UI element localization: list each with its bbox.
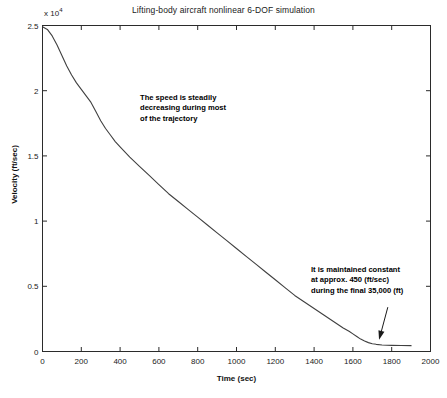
y-tick-label: 0.5 (27, 282, 39, 291)
velocity-line-series (43, 27, 412, 346)
x-tick-label: 200 (75, 357, 89, 366)
x-axis-tick-labels: 0200400600800100012001400160018002000 (40, 357, 440, 366)
y-axis-tick-labels: 00.511.522.5 (27, 22, 39, 357)
x-tick-label: 800 (191, 357, 205, 366)
plot-frame (43, 26, 431, 352)
y-axis-ticks (43, 26, 431, 352)
y-tick-label: 1.5 (27, 152, 39, 161)
arrow-shaft (381, 307, 388, 333)
y-tick-label: 1 (34, 217, 39, 226)
x-tick-label: 0 (40, 357, 45, 366)
plot-area: 0200400600800100012001400160018002000 00… (0, 0, 447, 398)
x-tick-label: 1000 (228, 357, 246, 366)
annotation-line: of the trajectory (140, 114, 226, 124)
x-axis-ticks (43, 26, 431, 352)
x-tick-label: 1800 (383, 357, 401, 366)
arrow-head (378, 330, 384, 339)
x-tick-label: 600 (152, 357, 166, 366)
annotation-line: The speed is steadily (140, 93, 226, 103)
chart-figure: Lifting-body aircraft nonlinear 6-DOF si… (0, 0, 447, 398)
annotation-constant-speed: It is maintained constant at approx. 450… (311, 265, 403, 296)
annotation-arrow (378, 307, 387, 340)
x-tick-label: 1200 (266, 357, 284, 366)
y-tick-label: 0 (34, 348, 39, 357)
annotation-speed-decreasing: The speed is steadily decreasing during … (140, 93, 226, 124)
x-tick-label: 2000 (422, 357, 440, 366)
annotation-line: It is maintained constant (311, 265, 403, 275)
x-tick-label: 1600 (344, 357, 362, 366)
x-tick-label: 1400 (305, 357, 323, 366)
annotation-line: during the final 35,000 (ft) (311, 286, 403, 296)
annotation-line: decreasing during most (140, 103, 226, 113)
annotation-line: at approx. 450 (ft/sec) (311, 275, 403, 285)
x-tick-label: 400 (113, 357, 127, 366)
y-tick-label: 2.5 (27, 22, 39, 31)
y-tick-label: 2 (34, 87, 39, 96)
